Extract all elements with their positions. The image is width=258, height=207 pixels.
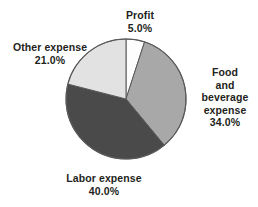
slice-label-labor-expense-value: 40.0% xyxy=(52,185,156,198)
pie-chart-figure: Profit 5.0% Food and beverage expense 34… xyxy=(0,0,258,207)
slice-label-food-and-beverage-expense-value: 34.0% xyxy=(192,116,258,129)
slice-label-profit-value: 5.0% xyxy=(104,22,176,35)
slice-label-other-expense-value: 21.0% xyxy=(2,54,98,67)
slice-label-profit-name: Profit xyxy=(104,9,176,22)
slice-label-other-expense: Other expense 21.0% xyxy=(2,41,98,66)
slice-label-food-and-beverage-expense-name: Food and beverage expense xyxy=(192,66,258,116)
slice-label-profit: Profit 5.0% xyxy=(104,9,176,34)
slice-label-food-and-beverage-expense: Food and beverage expense 34.0% xyxy=(192,66,258,129)
slice-label-labor-expense-name: Labor expense xyxy=(52,172,156,185)
slice-label-other-expense-name: Other expense xyxy=(2,41,98,54)
slice-label-labor-expense: Labor expense 40.0% xyxy=(52,172,156,197)
